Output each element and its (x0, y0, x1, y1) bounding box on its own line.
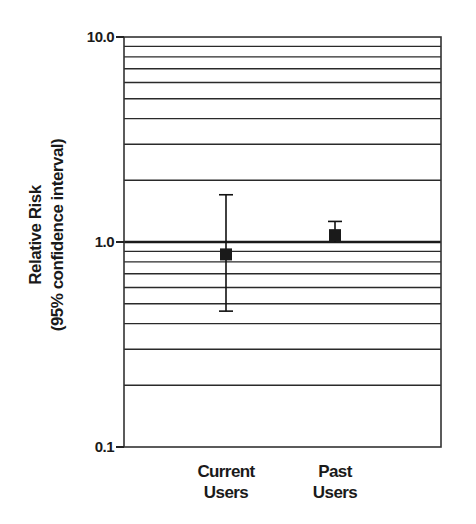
category-label: Users (313, 483, 357, 502)
relative-risk-chart: Relative Risk(95% confidence interval) 0… (0, 0, 476, 524)
category-label: Past (318, 462, 352, 481)
category-label: Users (204, 483, 248, 502)
x-axis-category-labels: CurrentUsersPastUsers (197, 462, 357, 502)
data-points (219, 195, 342, 311)
data-point-past-users (328, 221, 342, 242)
gridlines (124, 46, 441, 385)
data-point-current-users (219, 195, 233, 311)
y-axis-subtitle: (95% confidence interval) (48, 139, 67, 332)
y-tick-label: 1.0 (95, 233, 115, 250)
category-label: Current (197, 462, 255, 481)
point-estimate-marker (329, 229, 341, 241)
y-tick-label: 0.1 (95, 438, 115, 455)
y-axis-ticks: 0.11.010.0 (87, 28, 124, 455)
y-tick-label: 10.0 (87, 28, 114, 45)
y-axis-label: Relative Risk(95% confidence interval) (26, 139, 67, 332)
y-axis-title: Relative Risk (26, 184, 45, 284)
point-estimate-marker (220, 248, 232, 260)
